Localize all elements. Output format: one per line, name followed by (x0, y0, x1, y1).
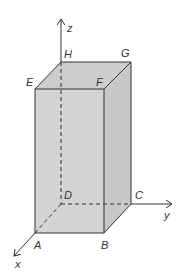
x-axis (14, 233, 35, 256)
vertex-label-a: A (33, 239, 41, 251)
vertex-label-d: D (64, 189, 72, 201)
vertex-label-c: C (135, 189, 143, 201)
axis-label-y: y (163, 209, 171, 221)
vertex-label-b: B (101, 239, 108, 251)
front-face (35, 89, 104, 233)
prism-diagram: z y x H G E F D C A B (0, 0, 181, 278)
axis-label-x: x (14, 258, 21, 270)
vertex-label-e: E (26, 76, 34, 88)
side-face (104, 62, 131, 233)
vertex-label-h: H (64, 48, 72, 60)
axis-label-z: z (66, 22, 73, 34)
vertex-label-g: G (121, 47, 130, 59)
